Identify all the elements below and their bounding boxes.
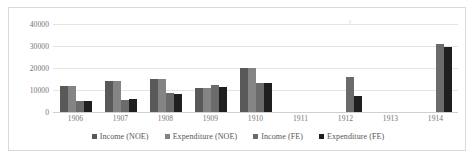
legend-item[interactable]: Income (NOE)	[92, 132, 149, 141]
bar	[84, 101, 92, 112]
bar	[113, 81, 121, 112]
x-axis-tick-label: 1914	[413, 114, 458, 123]
chart-legend: Income (NOE)Expenditure (NOE)Income (FE)…	[9, 132, 467, 141]
bar	[436, 44, 444, 112]
bar-group	[278, 24, 323, 112]
legend-swatch-icon	[165, 134, 170, 139]
plot-area	[53, 24, 458, 112]
bar	[105, 81, 113, 112]
bar	[240, 68, 248, 112]
bar	[68, 86, 76, 112]
legend-swatch-icon	[319, 134, 324, 139]
chart-container: 010000200003000040000 190619071908190919…	[8, 7, 466, 151]
bar	[346, 77, 354, 112]
bar	[444, 47, 452, 112]
bar	[60, 86, 68, 112]
bar-group	[368, 24, 413, 112]
bar-group	[323, 24, 368, 112]
bar	[211, 85, 219, 112]
legend-label: Income (NOE)	[100, 132, 149, 141]
y-axis: 010000200003000040000	[9, 24, 49, 112]
bar	[354, 96, 362, 113]
bar	[76, 101, 84, 112]
bar	[166, 93, 174, 112]
legend-swatch-icon	[92, 134, 97, 139]
y-axis-tick-label: 40000	[30, 20, 49, 29]
x-axis-tick-label: 1910	[233, 114, 278, 123]
bar-group	[188, 24, 233, 112]
x-axis-tick-label: 1906	[53, 114, 98, 123]
y-axis-tick-label: 10000	[30, 86, 49, 95]
bar	[174, 94, 182, 112]
bar	[264, 83, 272, 112]
bar-group	[98, 24, 143, 112]
legend-swatch-icon	[253, 134, 258, 139]
legend-item[interactable]: Expenditure (FE)	[319, 132, 384, 141]
bar-group	[143, 24, 188, 112]
bar	[158, 79, 166, 112]
legend-label: Expenditure (NOE)	[173, 132, 238, 141]
y-axis-tick-label: 0	[45, 108, 49, 117]
x-axis-tick-label: 1907	[98, 114, 143, 123]
y-axis-tick-label: 30000	[30, 42, 49, 51]
y-axis-tick-label: 20000	[30, 64, 49, 73]
legend-item[interactable]: Income (FE)	[253, 132, 303, 141]
x-axis-tick-label: 1909	[188, 114, 233, 123]
bar	[256, 83, 264, 112]
bar	[203, 88, 211, 112]
bar	[150, 79, 158, 112]
x-axis-tick-label: 1911	[278, 114, 323, 123]
x-axis-tick-label: 1908	[143, 114, 188, 123]
bar	[248, 68, 256, 112]
x-axis-tick-label: 1912	[323, 114, 368, 123]
legend-label: Income (FE)	[261, 132, 303, 141]
bar	[121, 100, 129, 112]
x-axis: 190619071908190919101911191219131914	[53, 114, 458, 128]
axis-baseline	[53, 112, 458, 113]
bar	[195, 88, 203, 112]
x-axis-tick-label: 1913	[368, 114, 413, 123]
bar-group	[233, 24, 278, 112]
bar-group	[53, 24, 98, 112]
bar-group	[413, 24, 458, 112]
legend-item[interactable]: Expenditure (NOE)	[165, 132, 238, 141]
bar	[129, 99, 137, 112]
bar	[219, 87, 227, 112]
legend-label: Expenditure (FE)	[327, 132, 384, 141]
